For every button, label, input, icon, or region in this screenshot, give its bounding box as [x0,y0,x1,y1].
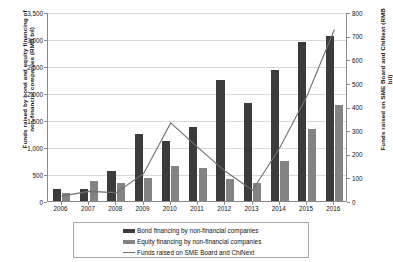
x-axis-tick-mark [252,202,253,205]
y-axis-left-tick-mark [44,67,47,68]
y-axis-left-tick-label: 0 [5,199,43,206]
y-axis-left-tick-mark [44,121,47,122]
legend-item-line: Funds raised on SME Board and ChiNext [74,247,308,258]
x-axis-tick-mark [115,202,116,205]
y-axis-right-tick-mark [347,84,350,85]
y-axis-right-tick-label: 200 [352,151,390,158]
legend-label-line: Funds raised on SME Board and ChiNext [137,249,254,256]
x-axis-tick-label: 2016 [313,205,353,212]
y-axis-left-tick-label: 1,000 [5,145,43,152]
y-axis-left-tick-mark [44,202,47,203]
legend-swatch-equity-icon [123,240,135,244]
y-axis-right-tick-mark [347,155,350,156]
y-axis-left-tick-mark [44,94,47,95]
y-axis-right-tick-label: 100 [352,175,390,182]
x-axis-tick-mark [197,202,198,205]
y-axis-right-tick-label: 800 [352,10,390,17]
y-axis-right-tick-label: 500 [352,81,390,88]
y-axis-left-tick-label: 500 [5,172,43,179]
plot-area [47,13,347,202]
chart-legend: Bond financing by non-financial companie… [73,222,309,258]
y-axis-right-tick-mark [347,202,350,203]
y-axis-right-tick-mark [347,60,350,61]
x-axis-tick-mark [170,202,171,205]
legend-item-equity: Equity financing by non-financial compan… [74,236,308,247]
y-axis-left-tick-label: 2,500 [5,64,43,71]
y-axis-left-tick-label: 1,500 [5,118,43,125]
y-axis-right-tick-mark [347,108,350,109]
y-axis-left-tick-mark [44,175,47,176]
y-axis-left-title: Funds raised by bond and equity financin… [21,4,36,154]
y-axis-left-tick-mark [44,40,47,41]
y-axis-right-tick-mark [347,13,350,14]
y-axis-right-tick-label: 700 [352,33,390,40]
x-axis-tick-mark [333,202,334,205]
y-axis-left-tick-label: 2,000 [5,91,43,98]
line-path [62,30,335,197]
legend-label-equity: Equity financing by non-financial compan… [137,238,261,245]
y-axis-right-tick-label: 300 [352,128,390,135]
x-axis-tick-mark [279,202,280,205]
y-axis-right-tick-label: 0 [352,199,390,206]
legend-label-bond: Bond financing by non-financial companie… [137,227,259,234]
y-axis-right-tick-label: 400 [352,104,390,111]
x-axis-tick-mark [88,202,89,205]
y-axis-left-tick-label: 3,000 [5,37,43,44]
y-axis-right-tick-mark [347,131,350,132]
y-axis-right-tick-mark [347,37,350,38]
x-axis-tick-mark [306,202,307,205]
x-axis-tick-mark [61,202,62,205]
legend-swatch-bond-icon [123,229,135,233]
line-series [48,13,348,202]
y-axis-right-tick-mark [347,178,350,179]
legend-swatch-line-icon [123,252,135,253]
legend-item-bond: Bond financing by non-financial companie… [74,225,308,236]
x-axis-tick-mark [143,202,144,205]
y-axis-left-tick-mark [44,148,47,149]
x-axis-tick-mark [224,202,225,205]
y-axis-left-tick-label: 3,500 [5,10,43,17]
y-axis-right-tick-label: 600 [352,57,390,64]
y-axis-left-tick-mark [44,13,47,14]
